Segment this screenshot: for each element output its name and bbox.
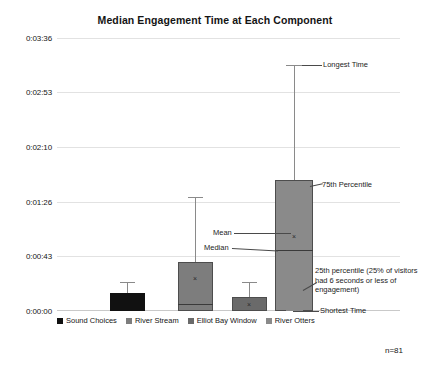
gridline [57, 92, 400, 93]
y-axis-tick-label: 0:02:10 [26, 143, 52, 152]
legend-item-label: River Stream [135, 316, 179, 325]
legend-item-label: River Otters [275, 316, 315, 325]
box-body [275, 180, 313, 311]
y-axis-tick-label: 0:03:36 [26, 34, 52, 43]
annotation-mean: Mean [213, 228, 232, 238]
y-axis-tick-label: 0:02:53 [26, 88, 52, 97]
median-line [275, 250, 313, 251]
legend-swatch-icon [57, 318, 63, 324]
legend-swatch-icon [126, 318, 132, 324]
legend-swatch-icon [266, 318, 272, 324]
y-axis-tick-label: 0:00:00 [26, 307, 52, 316]
annotation-median: Median [204, 243, 229, 253]
whisker-cap-upper [286, 65, 303, 66]
annotation-longest-time: Longest Time [323, 60, 368, 70]
y-axis-tick-label: 0:01:26 [26, 198, 52, 207]
box-plot-chart: Median Engagement Time at Each Component… [0, 0, 430, 372]
legend-item-river-otters[interactable]: River Otters [266, 316, 315, 325]
gridline [57, 256, 400, 257]
legend-item-sound-choices[interactable]: Sound Choices [57, 316, 117, 325]
whisker-upper [195, 197, 196, 262]
leader-line-shortest-time [293, 311, 319, 312]
median-line [178, 304, 213, 305]
box-body [232, 297, 267, 311]
gridline [57, 202, 400, 203]
gridline [57, 147, 400, 148]
chart-legend: Sound Choices River Stream Elliot Bay Wi… [57, 316, 315, 325]
gridline [57, 38, 400, 39]
legend-item-label: Sound Choices [66, 316, 117, 325]
leader-line-mean [234, 233, 291, 234]
legend-swatch-icon [188, 318, 194, 324]
whisker-upper [294, 65, 295, 180]
y-axis-tick-label: 0:00:43 [26, 252, 52, 261]
whisker-cap-upper [188, 197, 203, 198]
sample-size-label: n=81 [385, 346, 403, 355]
annotation-25th-percentile: 25th percentile (25% of visitors had 6 s… [315, 266, 427, 295]
legend-item-label: Elliot Bay Window [197, 316, 257, 325]
whisker-cap-upper [120, 282, 135, 283]
leader-line-longest-time [302, 65, 322, 66]
annotation-shortest-time: Shortest Time [320, 306, 366, 316]
legend-item-river-stream[interactable]: River Stream [126, 316, 179, 325]
box-body [110, 293, 145, 311]
annotation-75th-percentile: 75th Percentile [322, 180, 372, 190]
chart-title: Median Engagement Time at Each Component [0, 14, 430, 26]
whisker-cap-upper [242, 282, 257, 283]
legend-item-elliot-bay-window[interactable]: Elliot Bay Window [188, 316, 257, 325]
